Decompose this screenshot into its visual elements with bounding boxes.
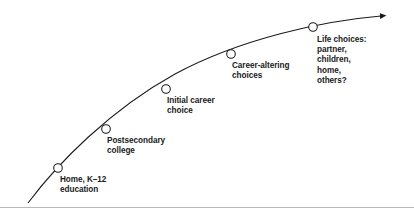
- node-label-home-k12-education: Home, K–12 education: [60, 175, 106, 195]
- node-marker-home-k12-education[interactable]: [54, 164, 63, 173]
- diagram-canvas: Home, K–12 education Postsecondary colle…: [0, 0, 414, 221]
- node-label-career-altering-choices: Career-altering choices: [232, 61, 290, 81]
- node-marker-postsecondary-college[interactable]: [102, 125, 111, 134]
- node-label-life-choices: Life choices: partner, children, home, o…: [317, 35, 366, 86]
- node-marker-life-choices[interactable]: [309, 23, 318, 32]
- node-marker-career-altering-choices[interactable]: [227, 50, 236, 59]
- node-marker-initial-career-choice[interactable]: [162, 85, 171, 94]
- node-label-initial-career-choice: Initial career choice: [167, 96, 215, 116]
- footer-divider: [0, 207, 414, 208]
- node-label-postsecondary-college: Postsecondary college: [107, 136, 165, 156]
